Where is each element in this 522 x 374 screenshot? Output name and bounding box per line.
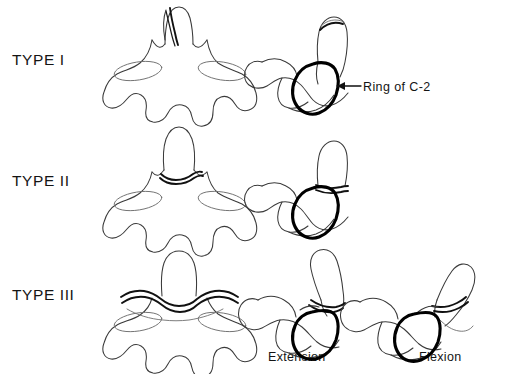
figure-line-art: [0, 0, 522, 374]
type-1-anterior-view: [103, 7, 257, 126]
type-3-lateral-flexion-view: [341, 264, 475, 361]
type-2-anterior-view: [103, 127, 257, 256]
type-3-anterior-view: [103, 251, 257, 374]
odontoid-fracture-figure: TYPE I TYPE II TYPE III Ring of C-2 Exte…: [0, 0, 522, 374]
type-2-lateral-view: [245, 141, 348, 238]
type-1-lateral-view: [245, 17, 361, 114]
type-3-lateral-extension-view: [239, 249, 345, 359]
